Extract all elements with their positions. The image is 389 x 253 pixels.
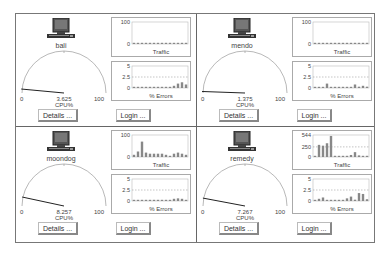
traffic-chart: 1000 Traffic bbox=[111, 17, 191, 57]
svg-text:2.5: 2.5 bbox=[303, 187, 311, 193]
svg-text:2.5: 2.5 bbox=[122, 187, 130, 193]
errors-chart: 502.5 % Errors bbox=[292, 174, 372, 214]
details-button[interactable]: Details ... bbox=[219, 222, 259, 235]
gauge-min-label: 0 bbox=[20, 96, 23, 102]
errors-chart: 502.5 % Errors bbox=[111, 61, 191, 101]
gauge-max-label: 100 bbox=[275, 209, 285, 215]
cpu-gauge bbox=[21, 160, 107, 208]
gauge-max-label: 100 bbox=[275, 96, 285, 102]
errors-chart-title: % Errors bbox=[313, 206, 371, 212]
svg-text:0: 0 bbox=[308, 154, 311, 160]
computer-icon[interactable] bbox=[46, 18, 76, 42]
host-monitor-grid: bali 0 3.625 100 CPU% 1000 Traffic 502.5… bbox=[15, 13, 375, 243]
svg-text:0: 0 bbox=[127, 85, 130, 91]
cpu-gauge bbox=[202, 47, 288, 95]
traffic-chart: 1000 Traffic bbox=[292, 17, 372, 57]
svg-text:0: 0 bbox=[308, 41, 311, 47]
cpu-gauge bbox=[21, 47, 107, 95]
traffic-chart: 5440250 Traffic bbox=[292, 130, 372, 170]
computer-icon[interactable] bbox=[227, 18, 257, 42]
svg-text:2.5: 2.5 bbox=[303, 74, 311, 80]
errors-chart: 502.5 % Errors bbox=[111, 174, 191, 214]
login-button[interactable]: Login ... bbox=[297, 109, 332, 122]
svg-text:0: 0 bbox=[127, 154, 130, 160]
login-button[interactable]: Login ... bbox=[297, 222, 332, 235]
traffic-chart-title: Traffic bbox=[132, 49, 190, 55]
details-button[interactable]: Details ... bbox=[38, 222, 78, 235]
svg-text:0: 0 bbox=[308, 85, 311, 91]
errors-chart-title: % Errors bbox=[313, 93, 371, 99]
host-panel: remedy 0 7.267 100 CPU% 5440250 Traffic … bbox=[197, 127, 377, 239]
gauge-title: CPU% bbox=[52, 215, 76, 221]
computer-icon[interactable] bbox=[46, 131, 76, 155]
gauge-title: CPU% bbox=[233, 215, 257, 221]
svg-text:100: 100 bbox=[121, 132, 130, 138]
svg-text:250: 250 bbox=[302, 144, 311, 150]
svg-text:100: 100 bbox=[302, 19, 311, 25]
traffic-chart: 1000 Traffic bbox=[111, 130, 191, 170]
host-panel: bali 0 3.625 100 CPU% 1000 Traffic 502.5… bbox=[16, 14, 196, 126]
errors-chart-title: % Errors bbox=[132, 206, 190, 212]
details-button[interactable]: Details ... bbox=[219, 109, 259, 122]
host-panel: mendo 0 1.375 100 CPU% 1000 Traffic 502.… bbox=[197, 14, 377, 126]
svg-text:100: 100 bbox=[121, 19, 130, 25]
traffic-chart-title: Traffic bbox=[313, 162, 371, 168]
errors-chart-title: % Errors bbox=[132, 93, 190, 99]
svg-text:5: 5 bbox=[127, 63, 130, 69]
gauge-min-label: 0 bbox=[201, 96, 204, 102]
svg-text:2.5: 2.5 bbox=[122, 74, 130, 80]
svg-text:0: 0 bbox=[127, 198, 130, 204]
details-button[interactable]: Details ... bbox=[38, 109, 78, 122]
errors-chart: 502.5 % Errors bbox=[292, 61, 372, 101]
traffic-chart-title: Traffic bbox=[313, 49, 371, 55]
gauge-max-label: 100 bbox=[94, 209, 104, 215]
svg-text:0: 0 bbox=[127, 41, 130, 47]
gauge-max-label: 100 bbox=[94, 96, 104, 102]
gauge-title: CPU% bbox=[233, 102, 257, 108]
cpu-gauge bbox=[202, 160, 288, 208]
svg-text:544: 544 bbox=[302, 132, 311, 138]
traffic-chart-title: Traffic bbox=[132, 162, 190, 168]
gauge-min-label: 0 bbox=[20, 209, 23, 215]
svg-text:5: 5 bbox=[308, 176, 311, 182]
login-button[interactable]: Login ... bbox=[116, 222, 151, 235]
computer-icon[interactable] bbox=[227, 131, 257, 155]
svg-text:5: 5 bbox=[127, 176, 130, 182]
login-button[interactable]: Login ... bbox=[116, 109, 151, 122]
host-panel: moondog 0 8.257 100 CPU% 1000 Traffic 50… bbox=[16, 127, 196, 239]
gauge-title: CPU% bbox=[52, 102, 76, 108]
svg-text:5: 5 bbox=[308, 63, 311, 69]
gauge-min-label: 0 bbox=[201, 209, 204, 215]
svg-text:0: 0 bbox=[308, 198, 311, 204]
